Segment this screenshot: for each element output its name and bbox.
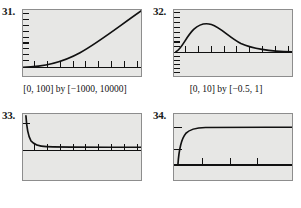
plot-screen-34 bbox=[173, 113, 293, 181]
panel-caption-32: [0, 10] by [−0.5, 1] bbox=[151, 84, 301, 95]
figure-panel-34: 34. bbox=[151, 104, 301, 208]
panel-number-34: 34. bbox=[153, 110, 166, 121]
panel-number-31: 31. bbox=[2, 6, 15, 17]
curve-34 bbox=[178, 127, 292, 164]
panel-number-32: 32. bbox=[153, 6, 166, 17]
x-axis-ticks-34 bbox=[203, 158, 258, 165]
panel-number-33: 33. bbox=[2, 110, 15, 121]
y-axis-ticks-32 bbox=[174, 13, 180, 72]
curve-31 bbox=[23, 11, 141, 67]
curve-32 bbox=[176, 24, 292, 52]
plot-graphic-34 bbox=[174, 114, 292, 180]
plot-screen-32 bbox=[173, 9, 293, 77]
plot-screen-31 bbox=[22, 9, 142, 77]
figure-panel-32: 32. bbox=[151, 0, 301, 104]
plot-graphic-32 bbox=[174, 10, 292, 76]
y-axis-ticks-31 bbox=[23, 14, 29, 61]
plot-graphic-31 bbox=[23, 10, 141, 76]
figure-panel-31: 31. bbox=[0, 0, 150, 104]
figure-panel-33: 33. bbox=[0, 104, 150, 208]
panel-caption-31: [0, 100] by [−1000, 10000] bbox=[0, 84, 150, 95]
figure-sheet: 31. bbox=[0, 0, 301, 208]
curve-33 bbox=[26, 116, 141, 147]
plot-screen-33 bbox=[22, 113, 142, 181]
plot-graphic-33 bbox=[23, 114, 141, 180]
